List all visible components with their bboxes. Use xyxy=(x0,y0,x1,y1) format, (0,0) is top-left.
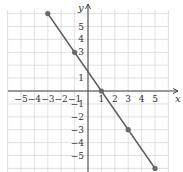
x-tick-label: −4 xyxy=(28,94,42,104)
x-tick-label: 5 xyxy=(152,94,158,104)
x-tick-label: 1 xyxy=(99,94,105,104)
y-tick-label: 1 xyxy=(78,73,84,83)
axes xyxy=(8,4,178,172)
data-point xyxy=(152,166,157,171)
y-tick-label: 3 xyxy=(78,47,84,57)
y-tick-label: −4 xyxy=(71,138,85,148)
y-tick-label: −5 xyxy=(71,151,85,161)
data-point xyxy=(45,11,50,16)
data-point xyxy=(72,50,77,55)
y-tick-label: 4 xyxy=(78,34,84,44)
x-tick-label: −2 xyxy=(55,94,68,104)
data-point xyxy=(126,127,131,132)
data-point xyxy=(99,88,104,93)
x-tick-label: −3 xyxy=(41,94,55,104)
x-tick-label: −5 xyxy=(14,94,28,104)
y-tick-label: −2 xyxy=(71,112,84,122)
y-tick-label: −1 xyxy=(71,99,84,109)
y-tick-label: −3 xyxy=(71,125,85,135)
y-tick-label: 5 xyxy=(78,22,84,32)
y-axis-label: y xyxy=(77,2,84,13)
x-tick-label: 4 xyxy=(139,94,145,104)
x-axis-label: x xyxy=(175,93,181,104)
x-tick-label: 3 xyxy=(125,94,131,104)
x-tick-label: 2 xyxy=(112,94,118,104)
line-chart: −5−4−3−2−1123455431−1−2−3−4−5 x y xyxy=(0,0,183,172)
